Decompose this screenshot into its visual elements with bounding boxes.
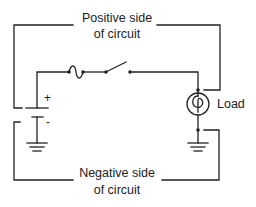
ground-icon [188,143,208,151]
load-lamp-icon [187,90,209,143]
junction-dots [67,70,200,132]
load-label: Load [217,97,245,111]
minus-terminal-label: - [46,115,50,129]
negative-side-label-line1: Negative side [79,166,155,180]
plus-terminal-label: + [44,91,51,105]
wire [130,72,198,90]
switch-icon [106,62,126,72]
fuse-icon [69,66,83,78]
circuit-diagram: Positive side of circuit Negative side o… [0,0,256,207]
negative-side-label-line2: of circuit [94,183,141,197]
ground-icon [27,143,47,151]
positive-side-label-line2: of circuit [94,27,141,41]
positive-side-label-line1: Positive side [82,11,152,25]
battery-icon [26,72,68,143]
